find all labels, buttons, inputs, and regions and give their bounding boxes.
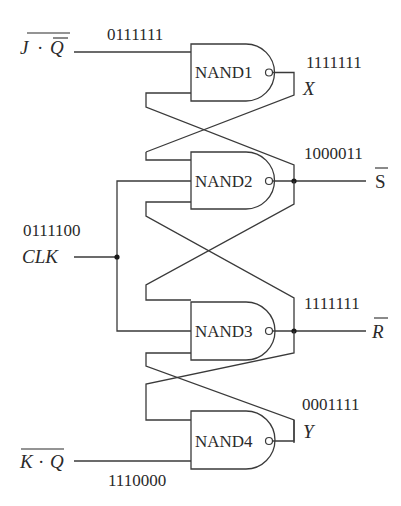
input-k-q: K · Q 1110000 — [19, 449, 191, 490]
nand4-inversion-bubble — [266, 438, 273, 445]
q-label: Q — [50, 451, 64, 472]
r-bar-bits: 1111111 — [304, 294, 360, 313]
gate-nand1: NAND1 — [191, 44, 275, 101]
clk-bus — [117, 181, 191, 331]
nand2-label: NAND2 — [195, 172, 253, 191]
j-label: J — [20, 37, 30, 58]
gate-nand3: NAND3 — [191, 302, 275, 360]
r-bar-label: R — [371, 321, 384, 342]
nand1-inversion-bubble — [266, 69, 273, 76]
x-bits: 1111111 — [306, 53, 362, 72]
s-bar-label: S — [375, 171, 386, 192]
s-bar-bits: 1000011 — [304, 144, 363, 163]
k-q-bits: 1110000 — [108, 471, 166, 490]
y-label: Y — [303, 421, 316, 442]
k-label: K — [19, 451, 34, 472]
nand1-label: NAND1 — [195, 63, 253, 82]
nand-flipflop-diagram: J · Q 0111111 NAND1 1111111 X NAND2 1000… — [0, 0, 401, 506]
x-to-nand2-wire — [146, 152, 191, 160]
k-dot: · — [38, 451, 44, 472]
clk-label: CLK — [22, 246, 59, 267]
input-j-qbar: J · Q 0111111 — [20, 25, 191, 58]
nand3-label: NAND3 — [195, 322, 253, 341]
clk-junction — [114, 254, 119, 259]
y-output-wire — [273, 420, 295, 441]
y-bits: 0001111 — [302, 395, 360, 414]
nand3-inversion-bubble — [266, 328, 273, 335]
j-dot: · — [37, 37, 43, 58]
input-clk: 0111100 CLK — [22, 181, 191, 331]
gate-nand4: NAND4 — [191, 411, 275, 469]
gate-nand2: NAND2 — [191, 152, 275, 209]
nand2-inversion-bubble — [266, 178, 273, 185]
j-qbar-bits: 0111111 — [107, 25, 163, 44]
x-label: X — [302, 78, 316, 99]
clk-bits: 0111100 — [23, 221, 81, 240]
qbar-label: Q — [50, 37, 64, 58]
nand4-label: NAND4 — [195, 432, 253, 451]
